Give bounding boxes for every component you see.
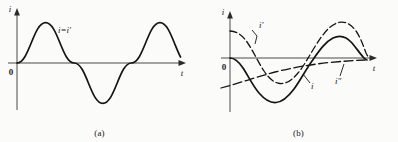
panel-b-plot: i t 0 i′ i i″ xyxy=(199,0,398,118)
panel-b: i t 0 i′ i i″ (b) xyxy=(199,0,398,142)
panel-a-x-axis-arrow-icon xyxy=(179,60,187,66)
panel-b-curve-i-prime xyxy=(230,22,369,83)
panel-b-x-axis-arrow-icon xyxy=(370,55,378,61)
panel-b-curve-i xyxy=(230,36,367,102)
panel-b-leader-i-double-prime xyxy=(340,64,344,76)
panel-b-leader-i-prime xyxy=(252,30,257,44)
panel-a-y-axis-label: i xyxy=(9,4,12,14)
panel-b-curve-label-i-prime: i′ xyxy=(259,20,265,30)
panel-a-curve-label: i=i′ xyxy=(58,25,72,35)
panel-b-y-axis-arrow-icon xyxy=(227,11,233,19)
panel-b-y-axis-label: i xyxy=(222,7,225,17)
panel-b-origin-label: 0 xyxy=(222,62,227,72)
panel-b-curve-label-i-double-prime: i″ xyxy=(335,76,342,86)
panel-b-x-axis-label: t xyxy=(373,63,376,73)
panel-b-caption: (b) xyxy=(199,128,398,138)
panel-b-curve-label-i: i xyxy=(311,81,314,91)
panel-a-origin-label: 0 xyxy=(9,67,14,77)
panel-a-plot: i t 0 i=i′ xyxy=(0,0,199,118)
panel-b-curve-i-double-prime xyxy=(221,60,365,88)
panel-a-y-axis-arrow-icon xyxy=(14,8,20,16)
figure-container: i t 0 i=i′ (a) xyxy=(0,0,398,142)
panel-a-x-axis-label: t xyxy=(181,68,184,78)
panel-b-leader-i xyxy=(303,74,310,83)
panel-a-caption: (a) xyxy=(0,128,199,138)
panel-a: i t 0 i=i′ (a) xyxy=(0,0,199,142)
